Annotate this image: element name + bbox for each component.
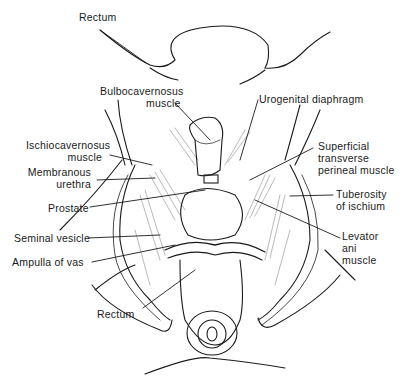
label-rectum-bottom: Rectum (97, 308, 134, 320)
label-tuberosity: Tuberosity (336, 188, 387, 200)
label-urogenital-diaphragm: Urogenital diaphragm (259, 93, 363, 105)
label-membranous-urethra-2: urethra (26, 178, 91, 190)
label-ischiocavernosus: Ischiocavernosus (26, 139, 102, 151)
label-levator-ani-2: ani (342, 242, 357, 254)
label-levator-ani: Levator (342, 230, 378, 242)
anatomy-diagram: Rectum Bulbocavernosus muscle Urogenital… (0, 0, 410, 386)
label-prostate: Prostate (48, 202, 89, 214)
label-superficial-transverse: Superficial (318, 140, 369, 152)
label-tuberosity-2: of ischium (336, 200, 385, 212)
label-levator-ani-3: muscle (342, 254, 376, 266)
label-bulbocavernosus-2: muscle (146, 97, 180, 109)
label-ischiocavernosus-2: muscle (26, 151, 102, 163)
label-seminal-vesicle: Seminal vesicle (14, 232, 90, 244)
label-superficial-transverse-2: transverse (318, 152, 369, 164)
label-bulbocavernosus: Bulbocavernosus (100, 85, 184, 97)
label-rectum-top: Rectum (79, 11, 116, 23)
label-superficial-transverse-3: perineal muscle (318, 164, 395, 176)
label-membranous-urethra: Membranous (26, 166, 91, 178)
label-ampulla-of-vas: Ampulla of vas (12, 256, 84, 268)
